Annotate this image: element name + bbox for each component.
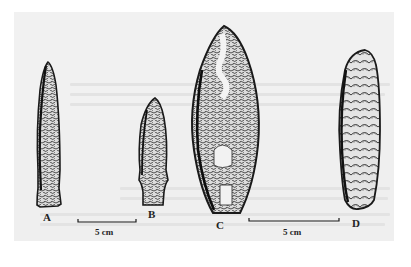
specimen-b <box>139 98 168 205</box>
projectile-points-illustration <box>0 0 411 267</box>
specimen-d <box>339 50 380 209</box>
scale-bar-1[interactable] <box>78 219 136 222</box>
specimen-a <box>37 62 61 207</box>
specimen-label-c: C <box>216 219 224 231</box>
specimen-c <box>192 26 259 213</box>
specimen-label-a: A <box>43 211 51 223</box>
specimen-label-d: D <box>352 217 360 229</box>
scale-bar-2[interactable] <box>249 218 339 221</box>
scale-bar-label-1: 5 cm <box>95 227 113 237</box>
scale-bar-label-2: 5 cm <box>283 227 301 237</box>
specimen-label-b: B <box>148 208 155 220</box>
